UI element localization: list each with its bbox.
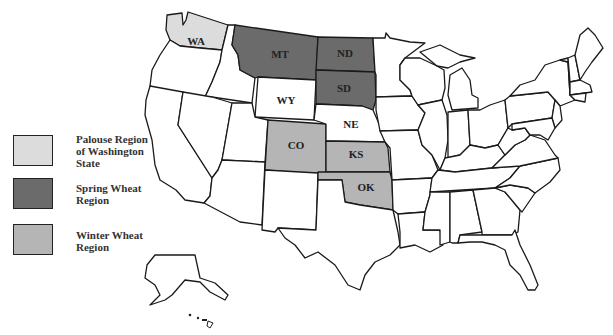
label-wy: WY bbox=[277, 94, 296, 106]
state-nm[interactable] bbox=[262, 170, 318, 232]
winter-swatch bbox=[13, 224, 53, 255]
label-ks: KS bbox=[349, 148, 364, 160]
legend-label-spring: Spring Wheat Region bbox=[76, 182, 166, 206]
label-co: CO bbox=[288, 139, 305, 151]
label-ne: NE bbox=[343, 118, 358, 130]
state-fl[interactable] bbox=[458, 230, 538, 290]
label-ok: OK bbox=[357, 181, 375, 193]
label-nd: ND bbox=[337, 47, 353, 59]
legend-label-winter: Winter Wheat Region bbox=[76, 229, 166, 253]
label-sd: SD bbox=[337, 82, 351, 94]
state-me[interactable] bbox=[575, 28, 603, 80]
legend-label-palouse: Palouse Region of Washington State bbox=[76, 133, 166, 169]
state-hi[interactable] bbox=[189, 314, 213, 328]
state-ak[interactable] bbox=[145, 255, 228, 305]
spring-swatch bbox=[13, 178, 53, 209]
state-ma[interactable] bbox=[570, 80, 592, 95]
label-mt: MT bbox=[271, 48, 289, 60]
palouse-swatch bbox=[13, 135, 53, 166]
label-wa: WA bbox=[187, 35, 205, 47]
